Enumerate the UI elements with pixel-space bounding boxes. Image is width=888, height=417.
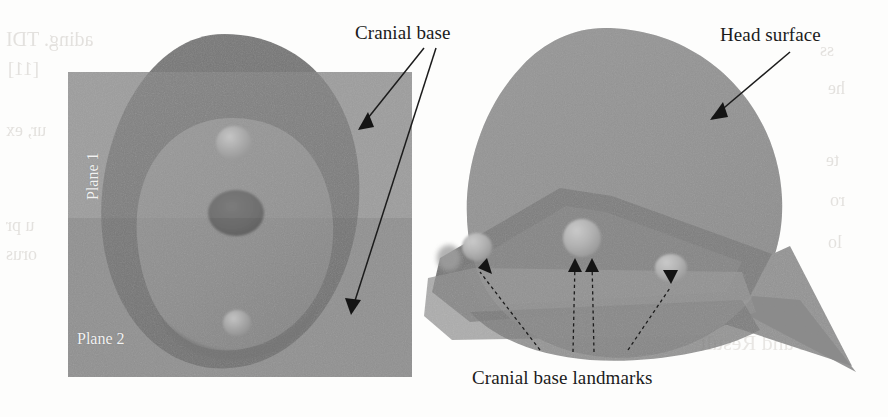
left-model-group [68,34,412,377]
label-plane-1: Plane 1 [84,152,102,200]
plane-2-overlay [68,218,412,377]
plane-1-overlay [68,72,412,218]
right-landmark-sphere-4 [437,245,461,271]
label-cranial-base: Cranial base [355,22,451,44]
right-head-surface-overlay [467,28,782,358]
label-cranial-base-landmarks: Cranial base landmarks [472,367,653,389]
right-model-group [424,28,856,372]
label-head-surface: Head surface [720,24,821,46]
figure-canvas: ading. TDI [11] ur, ex u pr orus ss he t… [0,0,888,417]
illustration-svg [0,0,888,417]
label-plane-2: Plane 2 [77,330,125,348]
